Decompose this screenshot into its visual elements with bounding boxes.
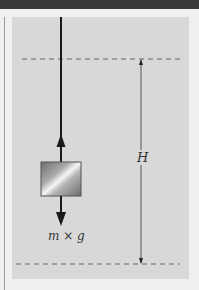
dimension-arrowhead-bottom-icon <box>139 258 143 264</box>
diagram-figure <box>0 0 199 290</box>
weight-label: m × g <box>48 229 85 243</box>
mass-block <box>41 162 81 196</box>
downward-arrow-icon <box>56 212 66 226</box>
height-label: H <box>136 150 149 165</box>
dimension-arrowhead-top-icon <box>139 59 143 65</box>
upward-arrow-icon <box>57 134 66 147</box>
